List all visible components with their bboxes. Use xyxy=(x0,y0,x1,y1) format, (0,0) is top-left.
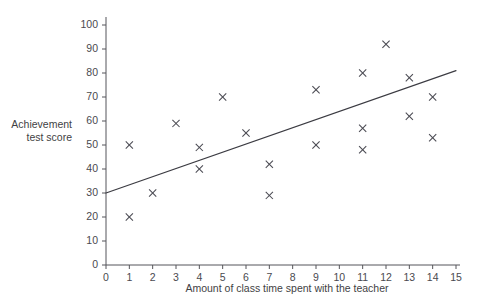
data-point xyxy=(312,141,319,148)
data-point xyxy=(429,93,436,100)
data-point xyxy=(172,120,179,127)
y-tick-label-10: 10 xyxy=(86,234,98,246)
data-point-markers xyxy=(126,41,437,221)
y-tick-label-100: 100 xyxy=(80,18,98,30)
x-tick-label-3: 3 xyxy=(173,271,179,283)
data-point xyxy=(312,86,319,93)
chart-canvas: 0102030405060708090100 01234567891011121… xyxy=(0,0,480,307)
data-point xyxy=(429,134,436,141)
x-tick-label-2: 2 xyxy=(150,271,156,283)
y-tick-label-40: 40 xyxy=(86,162,98,174)
y-tick-label-60: 60 xyxy=(86,114,98,126)
data-point xyxy=(406,113,413,120)
data-point xyxy=(382,41,389,48)
data-point xyxy=(359,146,366,153)
x-axis-label: Amount of class time spent with the teac… xyxy=(185,282,389,294)
x-tick-label-14: 14 xyxy=(427,271,439,283)
data-point xyxy=(149,189,156,196)
y-axis-ticks: 0102030405060708090100 xyxy=(80,18,106,270)
y-tick-label-80: 80 xyxy=(86,66,98,78)
trend-line xyxy=(106,71,456,193)
data-point xyxy=(266,192,273,199)
x-tick-label-13: 13 xyxy=(403,271,415,283)
data-point xyxy=(242,129,249,136)
data-point xyxy=(406,74,413,81)
y-tick-label-90: 90 xyxy=(86,42,98,54)
y-axis-label-line-2: test score xyxy=(26,131,72,143)
x-tick-label-0: 0 xyxy=(103,271,109,283)
y-tick-label-0: 0 xyxy=(92,258,98,270)
data-point xyxy=(359,125,366,132)
data-point xyxy=(219,93,226,100)
data-point xyxy=(126,141,133,148)
y-tick-label-70: 70 xyxy=(86,90,98,102)
data-point xyxy=(266,161,273,168)
x-tick-label-15: 15 xyxy=(450,271,462,283)
scatter-chart-figure: 0102030405060708090100 01234567891011121… xyxy=(0,0,480,307)
x-axis-ticks: 0123456789101112131415 xyxy=(103,265,462,283)
y-tick-label-30: 30 xyxy=(86,186,98,198)
y-tick-label-50: 50 xyxy=(86,138,98,150)
data-point xyxy=(196,144,203,151)
data-point xyxy=(196,165,203,172)
data-point xyxy=(126,213,133,220)
y-axis-label-line-1: Achievement xyxy=(11,118,72,130)
data-point xyxy=(359,69,366,76)
y-tick-label-20: 20 xyxy=(86,210,98,222)
x-tick-label-1: 1 xyxy=(126,271,132,283)
